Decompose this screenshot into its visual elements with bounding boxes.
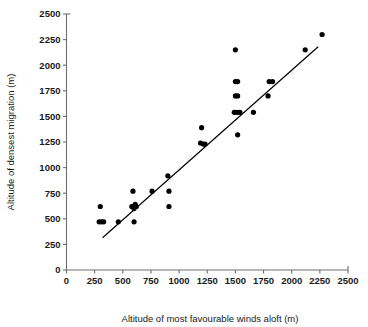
data-point bbox=[251, 110, 256, 115]
data-point bbox=[265, 93, 270, 98]
y-tick-label: 1000 bbox=[39, 162, 60, 173]
data-point bbox=[320, 32, 325, 37]
data-point bbox=[270, 79, 275, 84]
x-tick-label: 1250 bbox=[197, 275, 218, 286]
data-point bbox=[235, 93, 240, 98]
data-point bbox=[131, 219, 136, 224]
y-tick-label: 500 bbox=[45, 213, 61, 224]
data-point bbox=[165, 173, 170, 178]
x-tick-label: 250 bbox=[87, 275, 103, 286]
plot-canvas: 02505007501000125015001750200022502500 0… bbox=[0, 0, 368, 327]
y-tick-label: 2250 bbox=[39, 34, 60, 45]
x-tick-label: 0 bbox=[64, 275, 69, 286]
data-point bbox=[303, 47, 308, 52]
x-tick-label: 1500 bbox=[225, 275, 246, 286]
x-tick-label: 1750 bbox=[253, 275, 274, 286]
y-tick-label: 2000 bbox=[39, 60, 60, 71]
x-axis-tick-labels: 02505007501000125015001750200022502500 bbox=[64, 275, 359, 286]
y-tick-label: 750 bbox=[45, 188, 61, 199]
data-point bbox=[133, 202, 138, 207]
y-tick-label: 1750 bbox=[39, 85, 60, 96]
y-axis-title: Altitude of densest migration (m) bbox=[5, 74, 16, 211]
y-tick-label: 0 bbox=[55, 264, 60, 275]
data-point bbox=[101, 219, 106, 224]
data-point bbox=[166, 189, 171, 194]
data-point bbox=[130, 189, 135, 194]
x-tick-label: 2000 bbox=[281, 275, 302, 286]
x-tick-label: 500 bbox=[115, 275, 131, 286]
y-tick-label: 1250 bbox=[39, 136, 60, 147]
data-point bbox=[116, 219, 121, 224]
x-axis-title: Altitude of most favourable winds aloft … bbox=[122, 313, 299, 324]
x-tick-label: 750 bbox=[143, 275, 159, 286]
scatter-plot-figure: 02505007501000125015001750200022502500 0… bbox=[0, 0, 368, 327]
data-point bbox=[149, 189, 154, 194]
x-tick-label: 2250 bbox=[309, 275, 330, 286]
y-axis-line bbox=[67, 14, 71, 270]
y-axis-tick-labels: 02505007501000125015001750200022502500 bbox=[39, 8, 60, 275]
data-point bbox=[237, 110, 242, 115]
data-point bbox=[202, 141, 207, 146]
x-axis-line bbox=[67, 266, 349, 270]
y-tick-label: 2500 bbox=[39, 8, 60, 19]
x-tick-label: 2500 bbox=[337, 275, 358, 286]
data-point bbox=[233, 47, 238, 52]
data-point bbox=[98, 204, 103, 209]
data-point bbox=[199, 125, 204, 130]
x-tick-label: 1000 bbox=[169, 275, 190, 286]
data-point bbox=[235, 132, 240, 137]
data-point bbox=[235, 79, 240, 84]
data-points-group bbox=[97, 32, 325, 225]
y-tick-label: 250 bbox=[45, 239, 61, 250]
y-tick-label: 1500 bbox=[39, 111, 60, 122]
data-point bbox=[166, 204, 171, 209]
